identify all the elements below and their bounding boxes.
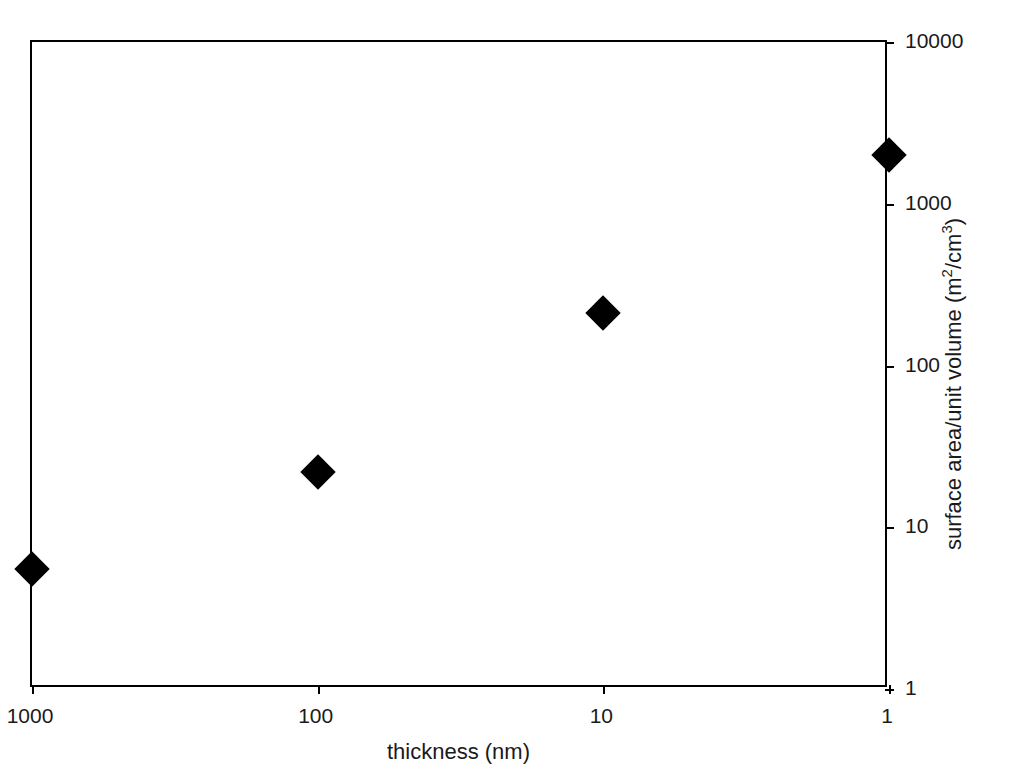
plot-area: [30, 40, 887, 687]
data-point-marker: [300, 454, 335, 489]
y-axis-title-text-middle: /cm: [941, 234, 966, 269]
y-axis-title-sup-area: 2: [938, 269, 955, 277]
y-tick-label: 10000: [905, 30, 963, 51]
x-axis-title: thickness (nm): [0, 739, 917, 765]
y-axis-title-sup-volume: 3: [938, 225, 955, 233]
y-axis-title-text-after: ): [941, 218, 966, 225]
x-tick-mark: [32, 685, 34, 694]
y-tick-mark: [885, 204, 894, 206]
y-tick-label: 10: [905, 515, 928, 536]
y-axis-title-text-before: surface area/unit volume (m: [941, 277, 966, 550]
y-axis-title: surface area/unit volume (m2/cm3): [941, 61, 981, 708]
x-tick-mark: [603, 685, 605, 694]
x-tick-label: 1: [881, 705, 893, 726]
x-tick-label: 100: [298, 705, 333, 726]
y-tick-label: 100: [905, 353, 940, 374]
y-tick-mark: [885, 42, 894, 44]
data-point-marker: [871, 137, 906, 172]
x-tick-label: 10: [590, 705, 613, 726]
x-tick-label: 1000: [7, 705, 54, 726]
data-point-marker: [14, 552, 49, 587]
y-tick-label: 1: [905, 677, 917, 698]
data-point-marker: [586, 296, 621, 331]
chart-figure: 1000100101 110100100010000 thickness (nm…: [0, 0, 1010, 776]
y-tick-mark: [885, 366, 894, 368]
x-tick-mark: [318, 685, 320, 694]
y-tick-mark: [885, 527, 894, 529]
y-tick-mark: [885, 689, 894, 691]
